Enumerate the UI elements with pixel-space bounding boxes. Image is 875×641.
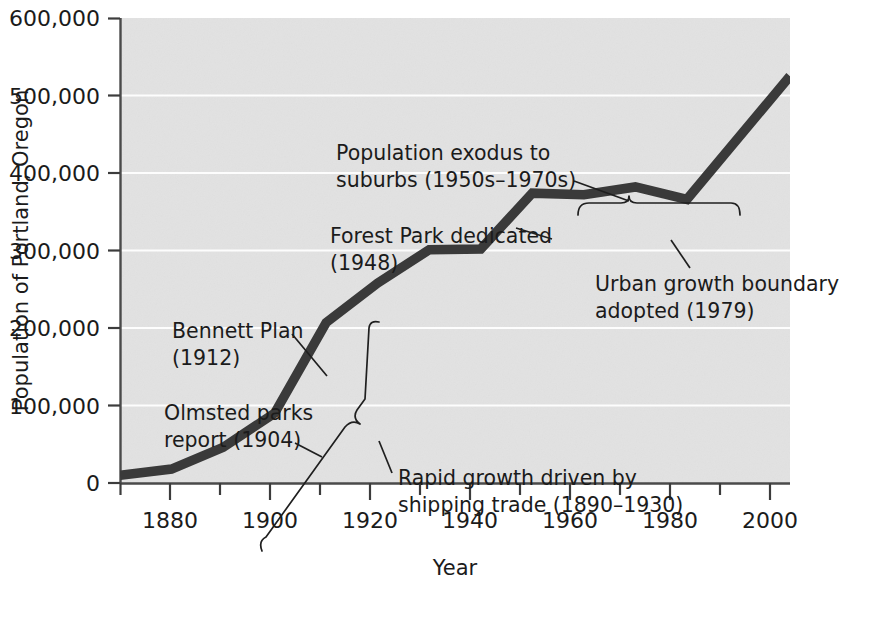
y-tick-label: 0 bbox=[86, 471, 100, 496]
annotation-line-1: Rapid growth driven by bbox=[398, 466, 637, 490]
annotation-line-2: (1948) bbox=[330, 251, 398, 275]
population-chart-figure: 600,000 500,000 400,000 300,000 200,000 … bbox=[0, 0, 875, 641]
x-axis-title: Year bbox=[432, 556, 478, 580]
y-tick-label: 600,000 bbox=[9, 6, 100, 31]
annotation-line-2: suburbs (1950s–1970s) bbox=[336, 168, 576, 192]
annotation-line-2: shipping trade (1890–1930) bbox=[398, 493, 683, 517]
annotation-line-2: adopted (1979) bbox=[595, 299, 754, 323]
x-tick-label: 1920 bbox=[342, 508, 398, 533]
x-tick-label: 1900 bbox=[242, 508, 298, 533]
annotation-line-2: report (1904) bbox=[164, 428, 301, 452]
annotation-line-1: Urban growth boundary bbox=[595, 272, 839, 296]
annotation-line-1: Population exodus to bbox=[336, 141, 550, 165]
annotation-olmsted-parks: Olmsted parks report (1904) bbox=[164, 401, 322, 457]
y-axis-title: Population of Portland, Oregon bbox=[9, 90, 33, 411]
annotation-line-1: Olmsted parks bbox=[164, 401, 313, 425]
x-tick-label: 2000 bbox=[742, 508, 798, 533]
y-axis bbox=[108, 18, 121, 483]
chart-canvas: 600,000 500,000 400,000 300,000 200,000 … bbox=[0, 0, 875, 641]
annotation-line-2: (1912) bbox=[172, 346, 240, 370]
annotation-line-1: Bennett Plan bbox=[172, 319, 303, 343]
annotation-line-1: Forest Park dedicated bbox=[330, 224, 552, 248]
x-tick-label: 1880 bbox=[142, 508, 198, 533]
